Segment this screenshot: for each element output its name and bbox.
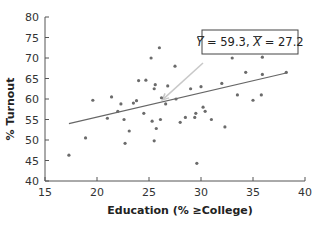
data-point — [210, 118, 213, 121]
data-point — [106, 117, 109, 120]
data-point — [144, 79, 147, 82]
x-tick-label: 30 — [194, 186, 208, 199]
x-tick-label: 15 — [38, 186, 52, 199]
data-point — [91, 99, 94, 102]
data-points — [67, 46, 288, 165]
data-point — [122, 118, 125, 121]
data-point — [261, 73, 264, 76]
x-tick-label: 25 — [142, 186, 156, 199]
data-point — [149, 56, 152, 59]
data-point — [123, 142, 126, 145]
data-point — [236, 93, 239, 96]
y-tick-label: 40 — [25, 175, 39, 188]
data-point — [84, 136, 87, 139]
data-point — [158, 46, 161, 49]
data-point — [244, 71, 247, 74]
data-point — [132, 102, 135, 105]
data-point — [154, 83, 157, 86]
data-point — [173, 65, 176, 68]
data-point — [194, 112, 197, 115]
scatter-chart: 152025303540404550556065707580 Y = 59.3,… — [0, 0, 321, 225]
data-point — [137, 79, 140, 82]
data-point — [135, 99, 138, 102]
data-point — [179, 121, 182, 124]
data-point — [164, 102, 167, 105]
data-point — [142, 112, 145, 115]
data-point — [155, 127, 158, 130]
data-point — [204, 110, 207, 113]
data-point — [159, 118, 162, 121]
data-point — [261, 56, 264, 59]
regression-line — [69, 73, 287, 124]
data-point — [67, 154, 70, 157]
data-point — [153, 87, 156, 90]
x-tick-label: 40 — [298, 186, 312, 199]
data-point — [189, 87, 192, 90]
x-tick-label: 20 — [90, 186, 104, 199]
data-point — [193, 116, 196, 119]
data-point — [199, 85, 202, 88]
data-point — [160, 96, 163, 99]
y-tick-label: 65 — [25, 73, 39, 86]
data-point — [174, 97, 177, 100]
data-point — [166, 84, 169, 87]
data-point — [184, 116, 187, 119]
y-tick-label: 55 — [25, 114, 39, 127]
y-tick-label: 75 — [25, 32, 39, 45]
y-tick-label: 50 — [25, 134, 39, 147]
data-point — [153, 139, 156, 142]
data-point — [151, 120, 154, 123]
data-point — [285, 71, 288, 74]
y-tick-label: 80 — [25, 11, 39, 24]
data-point — [251, 99, 254, 102]
y-tick-label: 60 — [25, 93, 39, 106]
data-point — [128, 129, 131, 132]
x-tick-label: 35 — [246, 186, 260, 199]
data-point — [110, 95, 113, 98]
y-tick-label: 45 — [25, 155, 39, 168]
y-tick-label: 70 — [25, 52, 39, 65]
x-axis-title: Education (% ≥College) — [107, 204, 253, 217]
data-point — [220, 82, 223, 85]
data-point — [119, 102, 122, 105]
data-point — [116, 110, 119, 113]
annotation-text: Y = 59.3, X = 27.2 — [196, 35, 303, 49]
mean-annotation: Y = 59.3, X = 27.2 — [196, 30, 303, 54]
data-point — [195, 162, 198, 165]
y-axis-title: % Turnout — [4, 78, 17, 141]
data-point — [223, 125, 226, 128]
data-point — [231, 56, 234, 59]
data-point — [201, 106, 204, 109]
data-point — [260, 93, 263, 96]
